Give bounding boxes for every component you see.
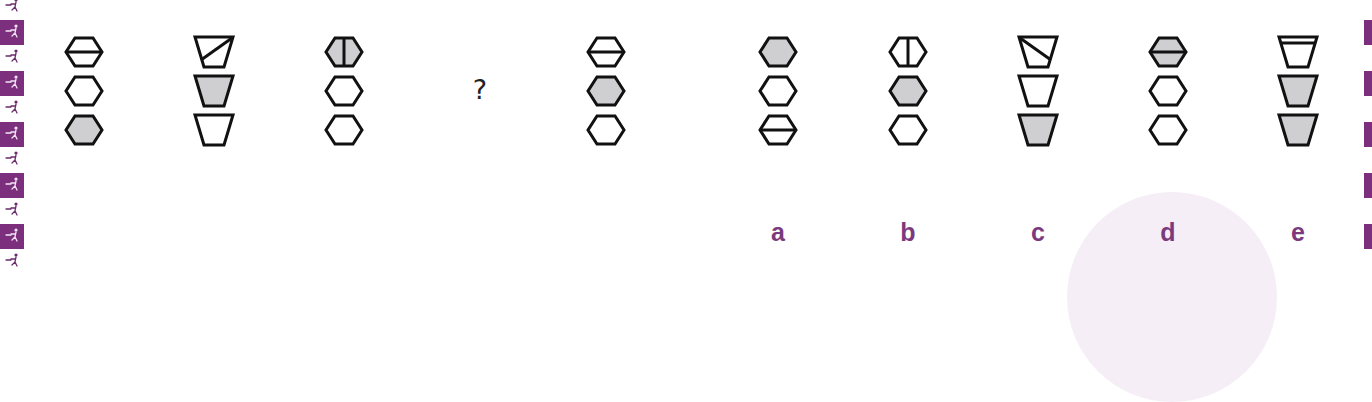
option-e-label[interactable]: e bbox=[1278, 218, 1318, 247]
border-tile bbox=[1364, 198, 1372, 224]
border-tile bbox=[0, 147, 24, 173]
option-a-figure[interactable] bbox=[748, 36, 808, 156]
sequence-figure-1 bbox=[54, 36, 114, 156]
border-tile bbox=[0, 96, 24, 122]
trapezoid-icon bbox=[1019, 37, 1057, 67]
border-tile bbox=[0, 20, 24, 46]
running-figure-icon bbox=[4, 176, 20, 192]
border-tile bbox=[1364, 20, 1372, 46]
border-tile bbox=[0, 173, 24, 199]
hexagon-icon bbox=[588, 116, 624, 144]
hexagon-icon bbox=[66, 77, 102, 105]
trapezoid-icon bbox=[195, 115, 233, 145]
option-a-label[interactable]: a bbox=[758, 218, 798, 247]
running-figure-icon bbox=[4, 252, 20, 268]
border-tile bbox=[1364, 249, 1372, 275]
running-figure-icon bbox=[4, 125, 20, 141]
option-c-label[interactable]: c bbox=[1018, 218, 1058, 247]
trapezoid-icon bbox=[1279, 76, 1317, 106]
hexagon-icon bbox=[588, 38, 624, 66]
missing-figure-question-mark: ? bbox=[468, 74, 492, 105]
border-tile bbox=[1364, 224, 1372, 250]
trapezoid-icon bbox=[1019, 76, 1057, 106]
border-tile bbox=[0, 224, 24, 250]
border-tile bbox=[0, 71, 24, 97]
hexagon-icon bbox=[760, 77, 796, 105]
hexagon-icon bbox=[1150, 38, 1186, 66]
border-tile bbox=[1364, 71, 1372, 97]
running-figure-icon bbox=[4, 227, 20, 243]
hexagon-icon bbox=[326, 38, 362, 66]
hexagon-icon bbox=[326, 77, 362, 105]
running-figure-icon bbox=[4, 99, 20, 115]
border-tile bbox=[1364, 122, 1372, 148]
hexagon-icon bbox=[760, 116, 796, 144]
hexagon-icon bbox=[66, 116, 102, 144]
left-decorative-border bbox=[0, 0, 24, 267]
running-figure-icon bbox=[4, 23, 20, 39]
border-tile bbox=[0, 198, 24, 224]
trapezoid-icon bbox=[195, 37, 233, 67]
running-figure-icon bbox=[4, 201, 20, 217]
trapezoid-icon bbox=[1019, 115, 1057, 145]
right-decorative-border bbox=[1364, 0, 1372, 267]
sequence-figure-2 bbox=[184, 36, 244, 156]
border-tile bbox=[0, 0, 24, 20]
option-b-label[interactable]: b bbox=[888, 218, 928, 247]
running-figure-icon bbox=[4, 48, 20, 64]
border-tile bbox=[1364, 173, 1372, 199]
running-figure-icon bbox=[4, 74, 20, 90]
option-e-figure[interactable] bbox=[1268, 36, 1328, 156]
border-tile bbox=[0, 122, 24, 148]
trapezoid-icon bbox=[1279, 115, 1317, 145]
border-tile bbox=[1364, 147, 1372, 173]
trapezoid-icon bbox=[195, 76, 233, 106]
hexagon-icon bbox=[326, 116, 362, 144]
hexagon-icon bbox=[1150, 116, 1186, 144]
hexagon-icon bbox=[1150, 77, 1186, 105]
border-tile bbox=[1364, 96, 1372, 122]
option-c-figure[interactable] bbox=[1008, 36, 1068, 156]
hexagon-icon bbox=[66, 38, 102, 66]
sequence-figure-5 bbox=[576, 36, 636, 156]
running-figure-icon bbox=[4, 0, 20, 13]
hexagon-icon bbox=[588, 77, 624, 105]
hexagon-icon bbox=[890, 38, 926, 66]
border-tile bbox=[1364, 0, 1372, 20]
option-d-label[interactable]: d bbox=[1148, 218, 1188, 247]
sequence-figure-3 bbox=[314, 36, 374, 156]
border-tile bbox=[0, 249, 24, 275]
border-tile bbox=[1364, 45, 1372, 71]
trapezoid-icon bbox=[1279, 37, 1317, 67]
option-b-figure[interactable] bbox=[878, 36, 938, 156]
hexagon-icon bbox=[890, 77, 926, 105]
option-d-figure[interactable] bbox=[1138, 36, 1198, 156]
hexagon-icon bbox=[890, 116, 926, 144]
border-tile bbox=[0, 45, 24, 71]
hexagon-icon bbox=[760, 38, 796, 66]
running-figure-icon bbox=[4, 150, 20, 166]
